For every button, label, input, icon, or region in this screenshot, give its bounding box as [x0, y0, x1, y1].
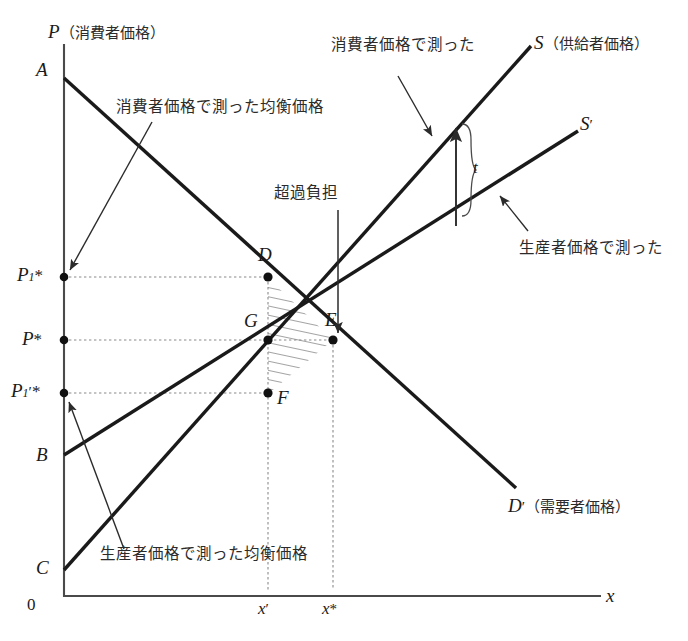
- supply-curve-producer-price: [64, 131, 578, 455]
- tick-label-xstar: x*: [322, 600, 337, 617]
- tick-label-pstar: P*: [22, 329, 42, 348]
- point-label-D: D: [258, 245, 272, 264]
- tick-label-xprime: x′: [258, 600, 269, 617]
- figure-canvas: P（消費者価格） A B C 0 x P1* P* P1′* x′ x* D G…: [0, 0, 688, 641]
- origin-label: 0: [27, 596, 36, 613]
- tax-label: t: [473, 159, 478, 176]
- label-C: C: [36, 558, 49, 577]
- curve-label-S-prime: S′: [580, 114, 593, 133]
- point-label-G: G: [244, 311, 258, 330]
- point-G: [263, 335, 272, 344]
- point-E: [328, 335, 337, 344]
- point-F: [263, 388, 272, 397]
- label-B: B: [36, 445, 48, 464]
- x-axis-label: x: [606, 586, 614, 605]
- label-A: A: [36, 60, 48, 79]
- leader-producer-price-curve: [500, 196, 528, 231]
- point-p1star: [60, 273, 69, 282]
- curve-label-D-prime: D′（需要者価格）: [508, 496, 630, 515]
- point-D: [263, 272, 272, 281]
- point-label-F: F: [277, 388, 289, 407]
- point-p1primestar: [60, 389, 69, 398]
- annotation-excess-burden: 超過負担: [274, 186, 338, 202]
- point-label-E: E: [325, 310, 337, 329]
- annotation-equilibrium-producer-price: 生産者価格で測った均衡価格: [100, 547, 308, 563]
- leader-equilibrium-consumer-price: [70, 122, 152, 270]
- annotation-measured-producer-price: 生産者価格で測った: [519, 241, 663, 257]
- excess-burden-triangle: [268, 278, 333, 394]
- annotation-measured-consumer-price: 消費者価格で測った: [331, 38, 475, 54]
- tick-label-p1primestar: P1′*: [11, 381, 40, 400]
- y-axis-label: P（消費者価格）: [48, 22, 165, 41]
- curve-label-S: S（供給者価格）: [534, 33, 649, 52]
- leader-consumer-price-curve: [398, 76, 432, 136]
- point-pstar: [60, 336, 69, 345]
- tick-label-p1star: P1*: [17, 265, 43, 284]
- annotation-equilibrium-consumer-price: 消費者価格で測った均衡価格: [116, 100, 324, 116]
